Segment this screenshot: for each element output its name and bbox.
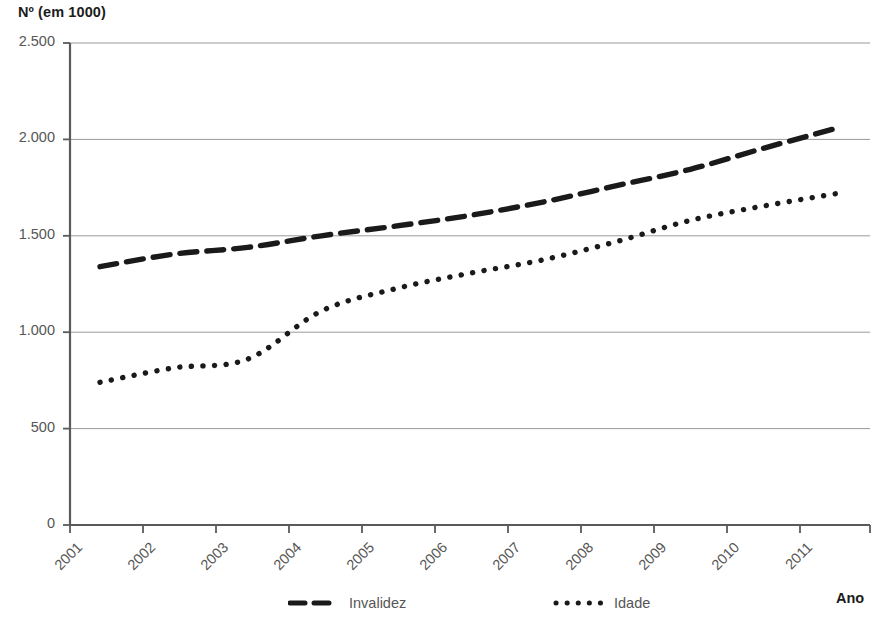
legend-label-invalidez: Invalidez [349,595,406,611]
y-axis-tick-label: 1.000 [0,322,55,338]
y-axis-line [63,43,70,525]
y-axis-tick-label: 500 [0,419,55,435]
y-axis-tick-label: 0 [0,515,55,531]
chart-legend: Invalidez Idade [0,595,889,623]
series-line-idade [100,193,838,382]
series-line-invalidez [100,128,838,267]
x-axis-line [70,525,870,533]
legend-item-idade: Idade [553,595,650,611]
data-series [100,128,838,382]
chart-container: Nº (em 1000) 05001.0001.5002.0002.500 20… [0,0,889,628]
dashed-line-icon [288,598,340,608]
y-axis-tick-label: 2.500 [0,33,55,49]
dotted-line-icon [553,598,605,608]
gridlines [70,43,870,525]
plot-area [0,0,889,628]
y-axis-tick-label: 2.000 [0,129,55,145]
y-axis-tick-label: 1.500 [0,226,55,242]
legend-label-idade: Idade [614,595,650,611]
legend-item-invalidez: Invalidez [288,595,406,611]
